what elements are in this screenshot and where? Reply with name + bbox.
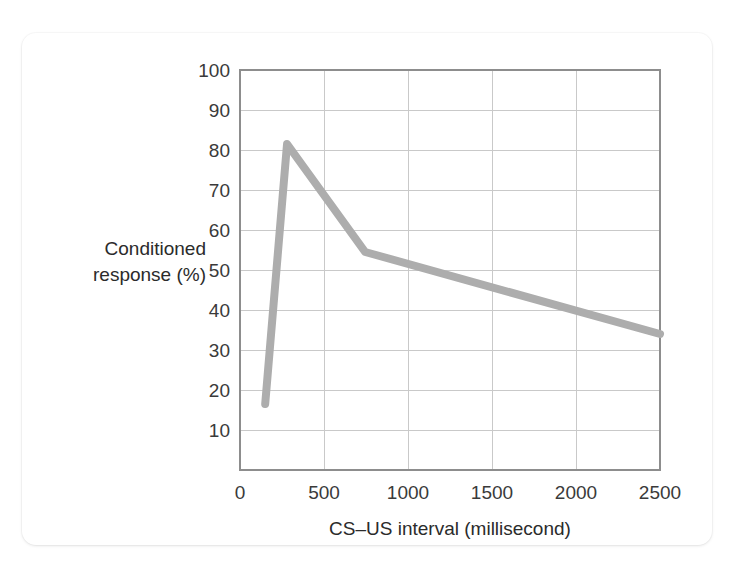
y-axis-title-line-2: response (%) bbox=[93, 264, 206, 285]
y-tick-label: 70 bbox=[209, 180, 230, 201]
y-tick-label: 30 bbox=[209, 340, 230, 361]
x-tick-label: 1000 bbox=[387, 482, 429, 503]
x-tick-label: 500 bbox=[308, 482, 340, 503]
x-tick-label: 1500 bbox=[471, 482, 513, 503]
y-tick-label: 60 bbox=[209, 220, 230, 241]
x-tick-label: 2000 bbox=[555, 482, 597, 503]
x-axis-title: CS–US interval (millisecond) bbox=[329, 518, 571, 539]
x-tick-label: 2500 bbox=[639, 482, 681, 503]
y-tick-label: 40 bbox=[209, 300, 230, 321]
y-tick-label: 50 bbox=[209, 260, 230, 281]
y-tick-label: 10 bbox=[209, 420, 230, 441]
y-axis-title-line-1: Conditioned bbox=[105, 238, 206, 259]
line-chart: 100 90 80 70 60 50 40 30 20 10 0 500 100… bbox=[22, 33, 712, 545]
x-tick-label: 0 bbox=[235, 482, 246, 503]
x-tick-labels: 0 500 1000 1500 2000 2500 bbox=[235, 482, 681, 503]
horizontal-gridlines bbox=[240, 110, 660, 430]
y-tick-label: 80 bbox=[209, 140, 230, 161]
y-axis-title: Conditioned response (%) bbox=[93, 238, 206, 285]
y-tick-label: 100 bbox=[198, 60, 230, 81]
y-tick-label: 90 bbox=[209, 100, 230, 121]
figure-card: 100 90 80 70 60 50 40 30 20 10 0 500 100… bbox=[22, 33, 712, 545]
y-tick-label: 20 bbox=[209, 380, 230, 401]
